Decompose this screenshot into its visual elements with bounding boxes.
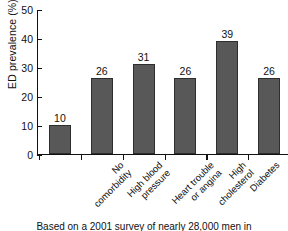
y-tick-label: 20: [21, 91, 33, 103]
x-tick-mark: [248, 155, 249, 160]
bar-value-label: 26: [263, 65, 275, 77]
bar-value-label: 26: [180, 65, 192, 77]
bar-value-label: 26: [96, 65, 108, 77]
bar: 26: [91, 78, 113, 153]
bar: 31: [133, 64, 155, 154]
bar-value-label: 31: [138, 51, 150, 63]
y-tick-mark: [37, 39, 42, 40]
y-tick-mark: [37, 126, 42, 127]
y-tick-label: 0: [27, 149, 33, 161]
x-category-label: High bloodpressure: [125, 160, 172, 207]
y-tick-label: 40: [21, 33, 33, 45]
x-category-label: Nocomorbidity: [84, 160, 133, 209]
bar: 26: [174, 78, 196, 153]
figure-caption: Based on a 2001 survey of nearly 28,000 …: [0, 221, 288, 231]
x-tick-mark: [39, 155, 40, 160]
y-tick-label: 30: [21, 62, 33, 74]
x-axis-line: [37, 154, 288, 155]
bar: 39: [216, 41, 238, 154]
bar-chart-figure: ED prevalence (%) 01020304050 1026312639…: [0, 0, 288, 231]
y-tick-mark: [37, 68, 42, 69]
x-tick-mark: [123, 155, 124, 160]
bar: 26: [258, 78, 280, 153]
y-tick-mark: [37, 10, 42, 11]
y-tick-label: 50: [21, 4, 33, 16]
x-tick-mark: [81, 155, 82, 160]
y-tick-mark: [37, 97, 42, 98]
x-tick-mark: [165, 155, 166, 160]
plot-area: 01020304050 102631263926: [37, 10, 288, 155]
y-axis-title: ED prevalence (%): [6, 0, 18, 104]
y-tick-label: 10: [21, 120, 33, 132]
y-axis-line: [37, 10, 38, 155]
bar-value-label: 39: [221, 28, 233, 40]
bar: 10: [49, 125, 71, 154]
bar-value-label: 10: [54, 112, 66, 124]
